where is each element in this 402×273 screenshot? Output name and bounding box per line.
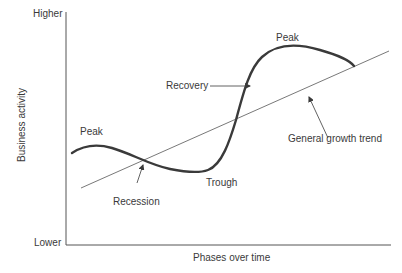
y-axis-bottom-label: Lower [34,237,61,249]
trough-label: Trough [206,177,237,189]
business-cycle-diagram: Higher Lower Business activity Phases ov… [0,0,402,273]
trend-arrow [309,97,328,138]
peak-left-label: Peak [80,126,103,138]
trend-label: General growth trend [288,133,382,145]
business-cycle-curve [72,46,354,173]
recession-label: Recession [113,196,160,208]
recovery-label: Recovery [166,80,208,92]
peak-right-label: Peak [276,32,299,44]
y-axis-title: Business activity [16,88,27,162]
y-axis-top-label: Higher [33,8,62,20]
x-axis-title: Phases over time [193,252,270,264]
recession-arrow [137,165,143,183]
